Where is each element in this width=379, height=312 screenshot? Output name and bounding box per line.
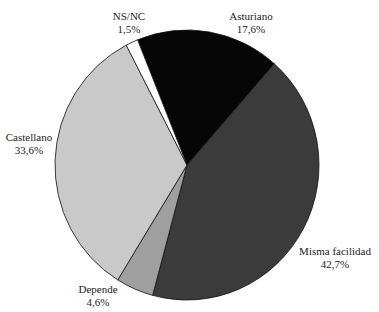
label-value: 42,7% <box>299 258 371 271</box>
label-name: Castellano <box>6 131 52 144</box>
label-name: Asturiano <box>229 10 272 23</box>
label-value: 1,5% <box>113 23 145 36</box>
label-name: Depende <box>78 283 117 296</box>
label-ns-nc: NS/NC 1,5% <box>113 10 145 36</box>
label-value: 17,6% <box>229 23 272 36</box>
label-name: NS/NC <box>113 10 145 23</box>
label-value: 33,6% <box>6 144 52 157</box>
label-castellano: Castellano 33,6% <box>6 131 52 157</box>
label-asturiano: Asturiano 17,6% <box>229 10 272 36</box>
label-name: Misma facilidad <box>299 245 371 258</box>
label-misma-facilidad: Misma facilidad 42,7% <box>299 245 371 271</box>
label-value: 4,6% <box>78 296 117 309</box>
label-depende: Depende 4,6% <box>78 283 117 309</box>
